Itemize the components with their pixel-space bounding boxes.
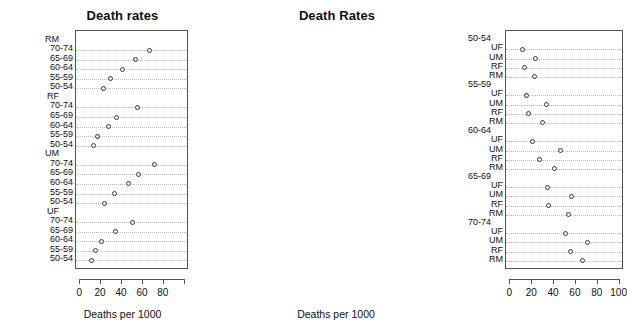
x-axis-tick-label: 20 (95, 287, 106, 298)
gridline (506, 187, 622, 188)
data-point (126, 181, 131, 186)
data-point (530, 139, 535, 144)
data-point (568, 249, 573, 254)
y-axis-group-label: UF (0, 206, 59, 216)
data-point (130, 220, 135, 225)
data-point (89, 258, 94, 263)
data-point (585, 240, 590, 245)
y-axis-tick-label: 65-69 (0, 110, 73, 120)
data-point (524, 93, 529, 98)
data-point (558, 148, 563, 153)
gridline (506, 123, 622, 124)
y-axis-group-label: RF (0, 91, 59, 101)
y-axis-tick-label: 65-69 (0, 225, 73, 235)
y-axis-tick-label: 70-74 (0, 158, 73, 168)
data-point (106, 124, 111, 129)
y-axis-tick-label: 50-54 (0, 81, 73, 91)
y-axis-tick-label: 55-59 (0, 129, 73, 139)
gridline (76, 79, 187, 80)
gridline (76, 88, 187, 89)
gridline (76, 174, 187, 175)
data-point (101, 86, 106, 91)
gridline (76, 165, 187, 166)
data-point (546, 203, 551, 208)
y-axis-tick-label: 60-64 (0, 120, 73, 130)
panel-right-title: Death Rates (215, 8, 431, 23)
data-point (112, 191, 117, 196)
y-axis-tick-label: 55-59 (0, 187, 73, 197)
x-axis-tick-label: 0 (507, 287, 513, 298)
gridline (76, 136, 187, 137)
gridline (506, 59, 622, 60)
data-point (93, 248, 98, 253)
data-point (99, 239, 104, 244)
y-axis-group-label: UM (0, 148, 59, 158)
x-axis-tick (184, 279, 185, 284)
x-axis-line (79, 279, 184, 280)
y-axis-tick-label: 70-74 (0, 43, 73, 53)
data-point (522, 65, 527, 70)
data-point (114, 115, 119, 120)
x-axis-tick-label: 0 (76, 287, 82, 298)
data-point (113, 229, 118, 234)
data-point (544, 102, 549, 107)
panel-left-title: Death rates (0, 8, 215, 23)
gridline (506, 77, 622, 78)
data-point (569, 194, 574, 199)
data-point (133, 57, 138, 62)
gridline (506, 151, 622, 152)
data-point (152, 162, 157, 167)
data-point (533, 56, 538, 61)
data-point (563, 231, 568, 236)
gridline (506, 114, 622, 115)
data-point (135, 105, 140, 110)
gridline (506, 105, 622, 106)
data-point (526, 111, 531, 116)
panel-left-plot-area (75, 30, 188, 269)
y-axis-tick-label: 60-64 (0, 234, 73, 244)
y-axis-tick-label: 50-54 (0, 253, 73, 263)
x-axis-line (509, 279, 618, 280)
gridline (76, 184, 187, 185)
x-axis-tick (142, 279, 143, 284)
x-axis-tick-label: 80 (591, 287, 602, 298)
x-axis-tick-label: 80 (157, 287, 168, 298)
y-axis-tick-label: 60-64 (0, 62, 73, 72)
y-axis-tick-label: 50-54 (0, 139, 73, 149)
data-point (552, 166, 557, 171)
gridline (76, 107, 187, 108)
gridline (506, 242, 622, 243)
data-point (537, 157, 542, 162)
gridline (76, 241, 187, 242)
x-axis-tick-label: 100 (610, 287, 627, 298)
gridline (506, 252, 622, 253)
y-axis-tick-label: 55-59 (0, 244, 73, 254)
data-point (120, 67, 125, 72)
y-axis-tick-label: 65-69 (0, 167, 73, 177)
data-point (147, 48, 152, 53)
data-point (532, 74, 537, 79)
x-axis-tick (597, 279, 598, 284)
data-point (545, 185, 550, 190)
x-axis-tick (100, 279, 101, 284)
data-point (540, 120, 545, 125)
chart-panel-left: Death rates RM70-7465-6960-6455-5950-54R… (0, 0, 215, 330)
x-axis-tick-label: 60 (136, 287, 147, 298)
data-point (95, 134, 100, 139)
data-point (136, 172, 141, 177)
x-axis-tick (531, 279, 532, 284)
gridline (506, 215, 622, 216)
x-axis-tick (163, 279, 164, 284)
gridline (506, 169, 622, 170)
data-point (91, 143, 96, 148)
y-axis-tick-label: 55-59 (0, 72, 73, 82)
y-axis-group-label: RM (0, 34, 59, 44)
y-axis-tick-label: RM (215, 254, 503, 264)
gridline (76, 69, 187, 70)
x-axis-tick (619, 279, 620, 284)
x-axis-tick-label: 40 (115, 287, 126, 298)
x-axis-title: Deaths per 1000 (0, 308, 215, 320)
gridline (76, 127, 187, 128)
x-axis-title: Deaths per 1000 (215, 308, 431, 320)
gridline (506, 261, 622, 262)
